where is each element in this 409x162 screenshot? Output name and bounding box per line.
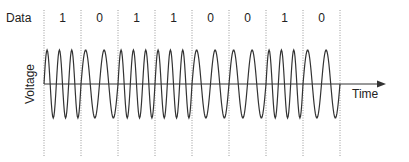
bit-label: 0: [96, 11, 103, 25]
bit-label: 0: [318, 11, 325, 25]
bit-label: 1: [170, 11, 177, 25]
data-row-label: Data: [6, 11, 32, 25]
fsk-diagram: Data Voltage Time 10110010: [0, 0, 409, 162]
y-axis-label: Voltage: [23, 64, 37, 104]
x-axis-label: Time: [352, 87, 379, 101]
bit-label: 0: [207, 11, 214, 25]
bit-label: 1: [59, 11, 66, 25]
bit-label: 1: [133, 11, 140, 25]
time-axis-arrow-icon: [377, 81, 386, 88]
bit-label: 0: [244, 11, 251, 25]
bit-label: 1: [281, 11, 288, 25]
